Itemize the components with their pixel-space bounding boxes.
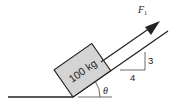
angle-label: θ [103,85,108,96]
inclined-plane-diagram: 100 kg F1 3 4 θ [0,0,176,110]
force-label: F1 [137,4,147,16]
slope-rise-label: 3 [148,55,153,66]
arrowhead-icon [145,21,160,35]
slope-run-label: 4 [130,72,135,83]
angle-arc [95,81,100,97]
